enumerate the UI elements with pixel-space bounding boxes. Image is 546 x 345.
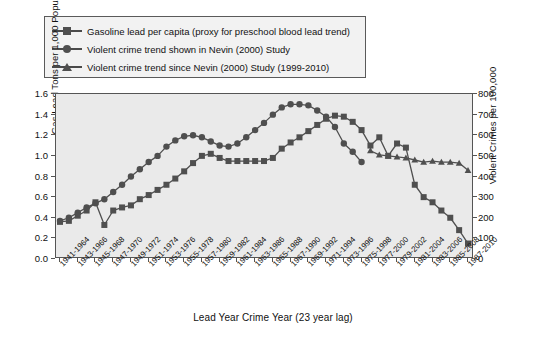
series-gasoline-lead-marker	[199, 153, 205, 159]
series-gasoline-lead-marker	[119, 204, 125, 210]
series-gasoline-lead-marker	[146, 192, 152, 198]
series-gasoline-lead-marker	[394, 141, 400, 147]
y-tick-mark	[51, 258, 55, 259]
series-violent-crime-nevin-marker	[358, 159, 364, 165]
y-axis-left-ticks: 1.61.41.21.00.80.60.40.20.0	[8, 93, 48, 258]
series-violent-crime-nevin-marker	[119, 182, 125, 188]
y-axis-right-title: Violent Crimes per 100,000	[487, 26, 498, 226]
series-gasoline-lead-marker	[172, 176, 178, 182]
y-tick-mark	[473, 93, 477, 94]
series-gasoline-lead-marker	[84, 208, 90, 214]
series-gasoline-lead-marker	[217, 155, 223, 161]
series-gasoline-lead-marker	[243, 158, 249, 164]
series-violent-crime-nevin-marker	[163, 143, 169, 149]
x-tick-mark	[165, 258, 166, 262]
x-tick-mark	[272, 258, 273, 262]
series-violent-crime-nevin-marker	[110, 189, 116, 195]
series-violent-crime-since	[367, 147, 471, 173]
legend-label-violent-crime-since: Violent crime trend since Nevin (2000) S…	[87, 62, 329, 73]
y-tick-mark	[473, 258, 477, 259]
x-tick-mark	[325, 258, 326, 262]
series-violent-crime-nevin-marker	[314, 107, 320, 113]
x-tick-mark	[77, 258, 78, 262]
series-gasoline-lead-marker	[163, 182, 169, 188]
series-gasoline-lead-marker	[57, 219, 63, 225]
legend-label-gasoline-lead: Gasoline lead per capita (proxy for pres…	[87, 26, 350, 37]
series-violent-crime-nevin-marker	[243, 134, 249, 140]
series-violent-crime-nevin-marker	[341, 140, 347, 146]
y-tick-mark	[51, 114, 55, 115]
x-tick-mark	[236, 258, 237, 262]
series-gasoline-lead-marker	[385, 153, 391, 159]
y-tick-mark	[473, 155, 477, 156]
plot-area	[55, 93, 473, 258]
series-gasoline-lead-line	[60, 116, 468, 244]
series-gasoline-lead-marker	[430, 199, 436, 205]
x-tick-mark	[254, 258, 255, 262]
x-tick-mark	[201, 258, 202, 262]
series-gasoline-lead-marker	[350, 119, 356, 125]
series-violent-crime-nevin-marker	[270, 111, 276, 117]
series-violent-crime-nevin-marker	[225, 143, 231, 149]
x-tick-mark	[219, 258, 220, 262]
series-violent-crime-nevin-marker	[349, 149, 355, 155]
y-tick-mark	[473, 176, 477, 177]
y-tick-mark	[51, 217, 55, 218]
series-violent-crime-nevin-marker	[287, 101, 293, 107]
y-tick-label: 0.2	[35, 232, 48, 243]
series-gasoline-lead-marker	[288, 139, 294, 145]
series-violent-crime-nevin-marker	[208, 138, 214, 144]
y-tick-mark	[473, 114, 477, 115]
series-gasoline-lead-marker	[270, 155, 276, 161]
x-tick-mark	[467, 258, 468, 262]
series-gasoline-lead-marker	[421, 194, 427, 200]
series-gasoline-lead-marker	[208, 151, 214, 157]
chart-legend: Gasoline lead per capita (proxy for pres…	[44, 16, 366, 78]
x-tick-mark	[112, 258, 113, 262]
series-gasoline-lead-marker	[155, 187, 161, 193]
x-tick-mark	[148, 258, 149, 262]
series-violent-crime-nevin-marker	[261, 120, 267, 126]
series-violent-crime-nevin-marker	[137, 166, 143, 172]
series-gasoline-lead-marker	[75, 213, 81, 219]
series-gasoline-lead-marker	[279, 146, 285, 152]
y-tick-label: 1.2	[35, 129, 48, 140]
y-axis-right-ticks: 8007006005004003002001000	[478, 93, 518, 258]
series-gasoline-lead-marker	[412, 182, 418, 188]
series-violent-crime-nevin-marker	[101, 196, 107, 202]
y-tick-label: 1.6	[35, 88, 48, 99]
y-tick-mark	[473, 134, 477, 135]
series-gasoline-lead-marker	[190, 160, 196, 166]
series-gasoline-lead-marker	[323, 116, 329, 122]
chart-figure: Gasoline lead per capita (proxy for pres…	[0, 0, 546, 345]
series-violent-crime-nevin-marker	[296, 101, 302, 107]
series-violent-crime-nevin-marker	[305, 102, 311, 108]
series-gasoline-lead-marker	[359, 127, 365, 133]
series-gasoline-lead-marker	[332, 113, 338, 119]
y-tick-mark	[51, 134, 55, 135]
series-violent-crime-nevin-marker	[154, 153, 160, 159]
series-gasoline-lead-marker	[447, 215, 453, 221]
series-violent-crime-nevin-marker	[172, 137, 178, 143]
series-gasoline-lead-marker	[252, 158, 258, 164]
series-gasoline-lead-marker	[296, 134, 302, 140]
y-tick-mark	[51, 176, 55, 177]
series-violent-crime-nevin-marker	[181, 133, 187, 139]
series-violent-crime-nevin-marker	[279, 104, 285, 110]
series-gasoline-lead-marker	[376, 134, 382, 140]
series-gasoline-lead-marker	[314, 122, 320, 128]
series-gasoline-lead-marker	[128, 202, 134, 208]
y-tick-mark	[473, 217, 477, 218]
y-tick-label: 0.4	[35, 211, 48, 222]
y-tick-label: 1.4	[35, 108, 48, 119]
y-tick-label: 1.0	[35, 149, 48, 160]
y-tick-label: 0.0	[35, 253, 48, 264]
series-gasoline-lead-marker	[101, 222, 107, 228]
series-gasoline-lead-marker	[403, 145, 409, 151]
x-tick-mark	[378, 258, 379, 262]
x-tick-mark	[290, 258, 291, 262]
x-tick-mark	[307, 258, 308, 262]
series-violent-crime-nevin	[57, 101, 365, 224]
legend-label-violent-crime-nevin: Violent crime trend shown in Nevin (2000…	[87, 44, 290, 55]
x-tick-mark	[396, 258, 397, 262]
